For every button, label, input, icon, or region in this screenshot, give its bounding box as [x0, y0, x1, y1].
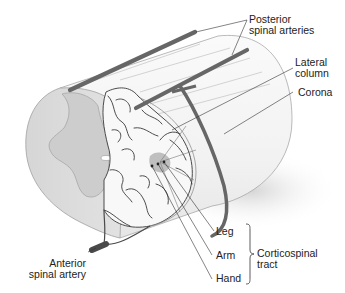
cortico-label-line2: tract	[257, 259, 318, 270]
lateral-label-line2: column	[295, 68, 329, 79]
anterior-label-line2: spinal artery	[6, 269, 86, 280]
leg-label-text: Leg	[216, 226, 234, 237]
corona-label: Corona	[298, 87, 332, 98]
corona-label-text: Corona	[298, 87, 332, 98]
hand-label: Hand	[216, 273, 241, 284]
arm-label: Arm	[216, 250, 235, 261]
hand-label-text: Hand	[216, 273, 241, 284]
corticospinal-tract-label: Corticospinal tract	[257, 248, 318, 270]
anterior-artery-label: Anterior spinal artery	[26, 258, 86, 280]
arm-label-text: Arm	[216, 250, 235, 261]
leg-label: Leg	[216, 226, 234, 237]
central-canal	[101, 156, 111, 161]
posterior-arteries-label: Posterior spinal arteries	[249, 14, 314, 36]
lateral-column-label: Lateral column	[295, 57, 329, 79]
posterior-label-line2: spinal arteries	[249, 25, 314, 36]
corticospinal-bracket	[246, 224, 254, 284]
